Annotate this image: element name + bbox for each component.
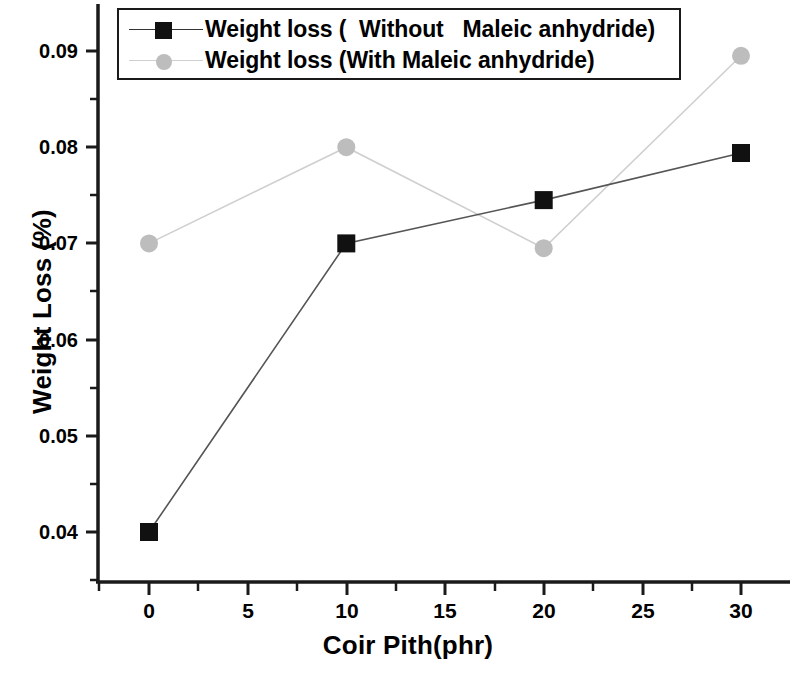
legend-label: Weight loss ( Without Maleic anhydride): [205, 16, 655, 43]
circle-marker-icon: [156, 54, 172, 70]
x-major-ticks: [149, 582, 741, 595]
legend-entry-with-maleic: Weight loss (With Maleic anhydride): [119, 45, 679, 76]
series-with-maleic-line: [149, 56, 741, 248]
y-tick-label: 0.04: [4, 522, 78, 542]
series-without-maleic-line: [149, 153, 741, 532]
legend: Weight loss ( Without Maleic anhydride) …: [117, 8, 681, 80]
data-point: [140, 234, 158, 252]
x-tick-label: 25: [623, 600, 663, 621]
x-axis-title: Coir Pith(phr): [98, 630, 718, 661]
data-point: [535, 191, 553, 209]
x-tick-label: 30: [721, 600, 761, 621]
chart-figure: 0.09 0.08 0.07 0.06 0.05 0.04 0 5 10 15 …: [0, 0, 790, 674]
legend-sample-square: [127, 17, 205, 43]
legend-entry-without-maleic: Weight loss ( Without Maleic anhydride): [119, 14, 679, 45]
legend-label: Weight loss (With Maleic anhydride): [205, 47, 594, 74]
data-point: [732, 47, 750, 65]
plot-area: [0, 0, 790, 674]
data-point: [337, 138, 355, 156]
data-point: [732, 144, 750, 162]
x-tick-label: 20: [524, 600, 564, 621]
x-tick-label: 15: [425, 600, 465, 621]
square-marker-icon: [155, 22, 172, 39]
x-tick-label: 10: [327, 600, 367, 621]
y-axis-title: Weight Loss (%): [27, 152, 58, 472]
y-tick-label: 0.09: [4, 41, 78, 61]
legend-sample-circle: [127, 48, 205, 74]
data-point: [535, 239, 553, 257]
x-tick-label: 5: [228, 600, 268, 621]
data-point: [140, 523, 158, 541]
data-point: [337, 234, 355, 252]
x-tick-label: 0: [129, 600, 169, 621]
